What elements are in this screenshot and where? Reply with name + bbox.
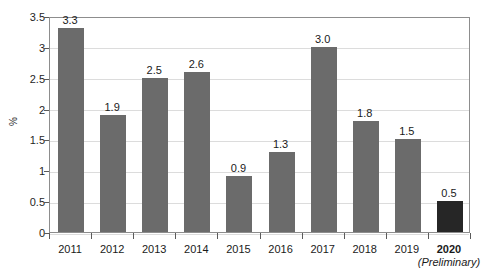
x-tick-mark: [302, 233, 303, 239]
x-tick-label-2011[interactable]: 2011: [47, 243, 93, 255]
x-tick-label-2015[interactable]: 2015: [215, 243, 261, 255]
y-tick-label: 0.5: [11, 197, 45, 207]
bar-value-label-2020: 0.5: [429, 187, 469, 199]
x-tick-label-2020[interactable]: 2020: [426, 243, 472, 255]
bar-2012[interactable]: [100, 115, 126, 232]
bar-2014[interactable]: [184, 72, 210, 232]
x-tick-label-2018[interactable]: 2018: [342, 243, 388, 255]
gridline: [50, 79, 469, 80]
gridline: [50, 48, 469, 49]
x-tick-label-2017[interactable]: 2017: [300, 243, 346, 255]
x-tick-mark: [133, 233, 134, 239]
x-tick-label-2016[interactable]: 2016: [258, 243, 304, 255]
bar-value-label-2019: 1.5: [387, 125, 427, 137]
bar-2011[interactable]: [58, 28, 84, 232]
x-tick-label-2014[interactable]: 2014: [173, 243, 219, 255]
bar-value-label-2013: 2.5: [134, 64, 174, 76]
bar-value-label-2015: 0.9: [218, 162, 258, 174]
x-tick-mark: [217, 233, 218, 239]
y-axis-ticks: 3.532.521.510.50: [0, 0, 45, 277]
y-tick-label: 2: [11, 105, 45, 115]
bar-value-label-2014: 2.6: [176, 58, 216, 70]
bar-2017[interactable]: [311, 47, 337, 232]
y-tick-label: 3: [11, 43, 45, 53]
bar-2013[interactable]: [142, 78, 168, 232]
x-tick-mark: [91, 233, 92, 239]
bar-2019[interactable]: [395, 139, 421, 232]
x-tick-mark: [260, 233, 261, 239]
y-tick-label: 3.5: [11, 12, 45, 22]
bar-chart: % 3.532.521.510.50 201120122013201420152…: [0, 0, 491, 277]
x-tick-label-2012[interactable]: 2012: [89, 243, 135, 255]
bar-2020[interactable]: [437, 201, 463, 232]
bar-2018[interactable]: [353, 121, 379, 232]
x-tick-label-2013[interactable]: 2013: [131, 243, 177, 255]
x-tick-mark: [428, 233, 429, 239]
x-tick-mark: [49, 233, 50, 239]
x-tick-mark: [386, 233, 387, 239]
x-tick-mark: [344, 233, 345, 239]
bar-value-label-2018: 1.8: [345, 107, 385, 119]
y-tick-label: 0: [11, 228, 45, 238]
bar-value-label-2016: 1.3: [261, 138, 301, 150]
x-tick-mark: [175, 233, 176, 239]
x-tick-mark: [470, 233, 471, 239]
x-tick-label-2019[interactable]: 2019: [384, 243, 430, 255]
bar-value-label-2017: 3.0: [303, 33, 343, 45]
bar-value-label-2012: 1.9: [92, 101, 132, 113]
y-tick-label: 1.5: [11, 135, 45, 145]
bar-2016[interactable]: [269, 152, 295, 232]
preliminary-note: (Preliminary): [401, 256, 491, 268]
y-tick-label: 1: [11, 166, 45, 176]
y-tick-label: 2.5: [11, 74, 45, 84]
bar-value-label-2011: 3.3: [50, 14, 90, 26]
bar-2015[interactable]: [226, 176, 252, 232]
